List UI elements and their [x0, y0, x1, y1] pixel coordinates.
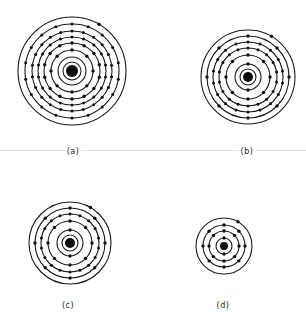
- electron-dot-icon: [117, 61, 120, 64]
- electron-dot-icon: [85, 84, 88, 87]
- electron-dot-icon: [71, 104, 74, 107]
- electron-dot-icon: [235, 108, 238, 111]
- electron-dot-icon: [43, 256, 46, 259]
- electron-dot-icon: [97, 236, 100, 239]
- electron-dot-icon: [93, 217, 96, 220]
- electron-dot-icon: [34, 86, 37, 89]
- electron-dot-icon: [90, 241, 93, 244]
- electron-dot-icon: [70, 41, 73, 44]
- electron-dot-icon: [265, 53, 268, 56]
- electron-dot-icon: [104, 64, 107, 67]
- electron-dot-icon: [59, 269, 62, 272]
- electron-dot-icon: [233, 234, 236, 237]
- electron-dot-icon: [247, 41, 250, 44]
- electron-dot-icon: [82, 38, 85, 41]
- electron-dot-icon: [237, 244, 240, 247]
- electron-dot-icon: [71, 110, 74, 113]
- electron-dot-icon: [82, 44, 85, 47]
- electron-dot-icon: [54, 114, 57, 117]
- electron-dot-icon: [97, 23, 100, 26]
- electron-dot-icon: [272, 61, 275, 64]
- electron-dot-icon: [58, 44, 61, 47]
- electron-dot-icon: [287, 75, 290, 78]
- electron-dot-icon: [272, 90, 275, 93]
- electron-dot-icon: [268, 75, 271, 78]
- electron-dot-icon: [110, 64, 113, 67]
- electron-dot-icon: [281, 69, 284, 72]
- electron-dot-icon: [207, 244, 210, 247]
- electron-dot-icon: [31, 64, 34, 67]
- electron-dot-icon: [94, 256, 97, 259]
- electron-dot-icon: [269, 49, 272, 52]
- electron-dot-icon: [101, 34, 104, 37]
- electron-dot-icon: [24, 61, 27, 64]
- electron-dot-icon: [92, 36, 95, 39]
- electron-dot-icon: [92, 52, 95, 55]
- electron-dot-icon: [231, 91, 234, 94]
- electron-dot-icon: [82, 31, 85, 34]
- electron-dot-icon: [269, 102, 272, 105]
- electron-dot-icon: [40, 96, 43, 99]
- electron-dot-icon: [216, 93, 219, 96]
- electron-dot-icon: [31, 75, 34, 78]
- electron-dot-icon: [50, 264, 53, 267]
- electron-dot-icon: [34, 53, 37, 56]
- electron-dot-icon: [110, 75, 113, 78]
- electron-dot-icon: [236, 220, 239, 223]
- electron-dot-icon: [68, 263, 71, 266]
- electron-dot-icon: [246, 97, 249, 100]
- electron-dot-icon: [24, 78, 27, 81]
- electron-dot-icon: [224, 75, 227, 78]
- atomic-shell-diagram-figure: (a) (b) (c) (d): [0, 0, 306, 319]
- electron-dot-icon: [212, 255, 215, 258]
- electron-dot-icon: [247, 105, 250, 108]
- electron-dot-icon: [221, 61, 224, 64]
- electron-dot-icon: [87, 114, 90, 117]
- electron-dot-icon: [70, 97, 73, 100]
- electron-dot-icon: [49, 36, 52, 39]
- electron-dot-icon: [68, 254, 71, 257]
- electron-dot-icon: [205, 75, 208, 78]
- electron-dot-icon: [218, 81, 221, 84]
- electron-dot-icon: [82, 101, 85, 104]
- electron-dot-icon: [69, 271, 72, 274]
- electron-dot-icon: [207, 259, 210, 262]
- electron-dot-icon: [212, 82, 215, 85]
- electron-dot-icon: [71, 23, 74, 26]
- electron-dot-icon: [224, 102, 227, 105]
- electron-dot-icon: [43, 63, 46, 66]
- atom-b-label: (b): [239, 147, 256, 156]
- electron-dot-icon: [59, 108, 62, 111]
- electron-dot-icon: [44, 217, 47, 220]
- electron-dot-icon: [207, 229, 210, 232]
- electron-dot-icon: [233, 255, 236, 258]
- electron-dot-icon: [246, 62, 249, 65]
- electron-dot-icon: [54, 25, 57, 28]
- electron-dot-icon: [277, 58, 280, 61]
- electron-dot-icon: [59, 38, 62, 41]
- electron-dot-icon: [92, 43, 95, 46]
- electron-dot-icon: [107, 53, 110, 56]
- electron-dot-icon: [246, 116, 249, 119]
- electron-dot-icon: [100, 87, 103, 90]
- atom-a: [18, 17, 126, 125]
- nucleus-icon: [65, 238, 75, 248]
- electron-dot-icon: [258, 108, 261, 111]
- electron-dot-icon: [246, 88, 249, 91]
- atom-c-label: (c): [60, 301, 76, 310]
- electron-dot-icon: [275, 104, 278, 107]
- electron-dot-icon: [40, 106, 43, 109]
- electron-dot-icon: [70, 90, 73, 93]
- electron-dot-icon: [101, 106, 104, 109]
- electron-dot-icon: [87, 25, 90, 28]
- electron-dot-icon: [222, 229, 225, 232]
- electron-dot-icon: [89, 206, 92, 209]
- electron-dot-icon: [111, 93, 114, 96]
- electron-dot-icon: [275, 81, 278, 84]
- electron-dot-icon: [228, 98, 231, 101]
- electron-dot-icon: [71, 30, 74, 33]
- electron-dot-icon: [92, 96, 95, 99]
- atoms-canvas: [0, 0, 306, 319]
- electron-dot-icon: [46, 241, 49, 244]
- electron-dot-icon: [49, 69, 52, 72]
